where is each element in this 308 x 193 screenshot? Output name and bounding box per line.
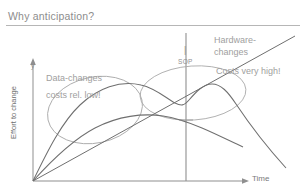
y-axis-tick-label: y [31, 62, 35, 69]
costs-very-high-label: Costs very high! [216, 65, 281, 78]
x-axis [33, 178, 249, 183]
y-axis [30, 58, 36, 181]
sop-label-text: SOP [178, 58, 193, 65]
slide-canvas: Why anticipation? | [0, 0, 308, 193]
y-axis-label: Effort to change [9, 74, 18, 152]
hardware-changes-label-line2: changes [214, 46, 248, 59]
effort-rising-line [33, 36, 295, 181]
x-axis-label: Time [252, 172, 269, 185]
costs-rel-low-label: costs rel. low! [46, 89, 101, 102]
effort-curve-lower [33, 115, 243, 181]
data-changes-label: Data-changes [46, 72, 102, 85]
sop-label: | SOP [178, 44, 193, 68]
sop-tick-icon: | [178, 44, 193, 57]
